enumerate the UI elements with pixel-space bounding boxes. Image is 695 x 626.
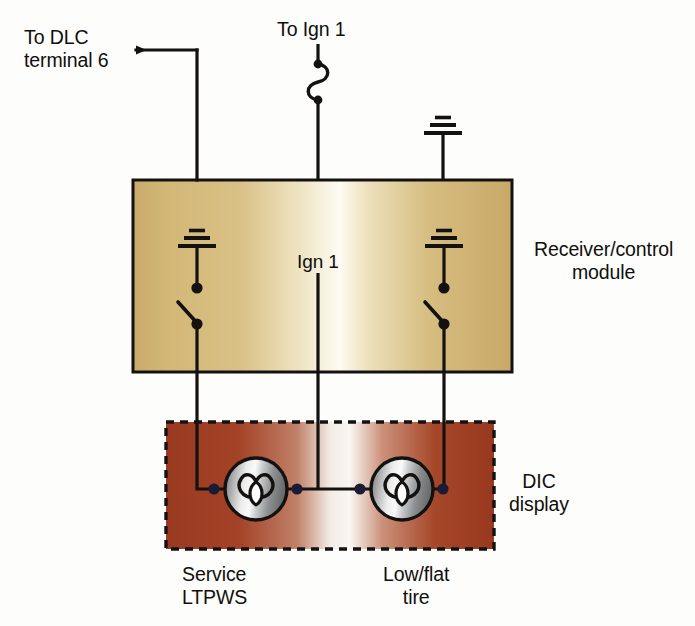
label-to-ign-1: To Ign 1 — [277, 18, 346, 41]
label-receiver-control-module: Receiver/control module — [534, 238, 673, 284]
wire-right-lamp-branch — [443, 372, 444, 489]
lamp-service-ltpws-icon — [225, 458, 287, 520]
wire-dlc-branch — [136, 50, 197, 180]
fuse-ign1-icon — [308, 60, 328, 105]
label-low-flat-tire: Low/flat tire — [383, 563, 449, 609]
junction-lamp-right-out — [437, 483, 448, 494]
wiring-diagram: To DLC terminal 6 To Ign 1 Receiver/cont… — [0, 0, 695, 626]
label-dic-display: DIC display — [509, 470, 569, 516]
lamp-low-flat-tire-icon — [371, 458, 433, 520]
ground-external-top-icon — [424, 118, 462, 181]
junction-lamp-left-out — [291, 483, 302, 494]
receiver-control-module-box — [133, 180, 512, 372]
label-ign-1-internal: Ign 1 — [297, 250, 339, 273]
schematic-canvas — [0, 0, 695, 626]
label-service-ltpws: Service LTPWS — [182, 563, 247, 609]
junction-lamp-right-in — [354, 483, 365, 494]
junction-lamp-left-in — [208, 483, 219, 494]
label-to-dlc-terminal-6: To DLC terminal 6 — [24, 26, 109, 72]
